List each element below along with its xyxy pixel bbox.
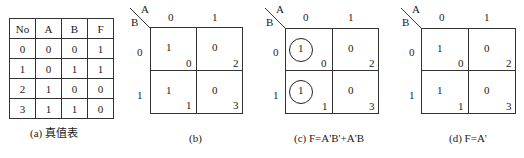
- var-row-label: B: [131, 16, 138, 28]
- cell-index: 0: [321, 57, 327, 69]
- cell-value: 1: [166, 41, 172, 53]
- cell-value: 0: [484, 84, 490, 96]
- cell-value: 1: [298, 42, 304, 54]
- row-label-1: 1: [273, 89, 279, 101]
- cell: 0: [10, 39, 36, 59]
- cell-value: 1: [437, 84, 443, 96]
- cell-index: 2: [506, 57, 512, 69]
- kmap-cell: 0 2: [197, 28, 243, 71]
- cell: 1: [88, 39, 114, 59]
- cell-index: 3: [506, 100, 512, 112]
- row-label-0: 0: [137, 46, 143, 58]
- table-row: 2 1 0 0: [10, 79, 114, 99]
- header-no: No: [10, 19, 36, 39]
- cell-value: 1: [437, 42, 443, 54]
- caption-b: (b): [189, 132, 202, 144]
- col-label-0: 0: [168, 11, 174, 23]
- var-col-label: A: [276, 3, 284, 15]
- caption-c: (c) F=A'B'+A'B: [294, 132, 364, 144]
- cell: 0: [36, 39, 62, 59]
- cell-index: 2: [369, 57, 375, 69]
- header-a: A: [36, 19, 62, 39]
- kmap-grid: 1 0 0 2 1 1 0 3: [285, 28, 379, 114]
- kmap-cell: 0 2: [469, 29, 516, 71]
- kmap-cell: 0 3: [333, 71, 379, 114]
- col-label-1: 1: [212, 11, 218, 23]
- cell: 0: [88, 79, 114, 99]
- col-label-1: 1: [484, 11, 490, 23]
- cell-value: 1: [298, 84, 304, 96]
- col-label-0: 0: [439, 11, 445, 23]
- kmap-cell: 0 3: [469, 71, 516, 114]
- caption-truth-table: (a) 真值表: [30, 124, 78, 140]
- cell-value: 0: [348, 84, 354, 96]
- table-row: 0 0 0 1: [10, 39, 114, 59]
- header-f: F: [88, 19, 114, 39]
- row-label-0: 0: [409, 46, 415, 58]
- cell-index: 0: [186, 57, 192, 69]
- cell: 0: [62, 39, 88, 59]
- cell-index: 1: [186, 99, 192, 111]
- kmap-cell: 1 1: [286, 71, 333, 114]
- var-row-label: B: [402, 16, 409, 28]
- table-row: 3 1 1 0: [10, 99, 114, 119]
- cell-value: 0: [348, 42, 354, 54]
- cell-index: 0: [458, 57, 464, 69]
- kmap-cell: 0 3: [197, 71, 243, 114]
- cell-index: 3: [369, 100, 375, 112]
- var-row-label: B: [266, 16, 273, 28]
- row-label-1: 1: [409, 89, 415, 101]
- cell: 3: [10, 99, 36, 119]
- kmap-grid: 1 0 0 2 1 1 0 3: [421, 28, 516, 114]
- cell: 1: [10, 59, 36, 79]
- col-label-0: 0: [303, 11, 309, 23]
- cell: 1: [36, 99, 62, 119]
- cell-index: 1: [322, 100, 328, 112]
- cell-value: 0: [212, 84, 218, 96]
- header-b: B: [62, 19, 88, 39]
- row-label-1: 1: [137, 89, 143, 101]
- truth-table: No A B F 0 0 0 1 1 0 1 1 2 1 0 0 3 1 1 0: [9, 18, 114, 119]
- cell: 1: [62, 59, 88, 79]
- caption-d: (d) F=A': [449, 132, 487, 144]
- cell: 0: [62, 79, 88, 99]
- cell: 0: [36, 59, 62, 79]
- kmap-cell: 1 0: [151, 28, 197, 71]
- cell: 1: [36, 79, 62, 99]
- cell-index: 2: [233, 57, 239, 69]
- kmap-cell: 0 2: [333, 29, 379, 71]
- kmap-cell: 1 1: [151, 71, 197, 114]
- var-col-label: A: [141, 3, 149, 15]
- kmap-grid: 1 0 0 2 1 1 0 3: [150, 27, 243, 114]
- cell: 2: [10, 79, 36, 99]
- cell-value: 0: [212, 41, 218, 53]
- row-label-0: 0: [273, 46, 279, 58]
- cell-index: 3: [233, 99, 239, 111]
- truth-table-header: No A B F: [10, 19, 114, 39]
- cell: 0: [88, 99, 114, 119]
- col-label-1: 1: [348, 11, 354, 23]
- var-col-label: A: [412, 3, 420, 15]
- cell-value: 0: [484, 42, 490, 54]
- cell: 1: [88, 59, 114, 79]
- kmap-cell: 1 1: [422, 71, 469, 114]
- kmap-cell: 1 0: [286, 29, 333, 71]
- cell-value: 1: [166, 84, 172, 96]
- kmap-cell: 1 0: [422, 29, 469, 71]
- cell: 1: [62, 99, 88, 119]
- cell-index: 1: [458, 100, 464, 112]
- table-row: 1 0 1 1: [10, 59, 114, 79]
